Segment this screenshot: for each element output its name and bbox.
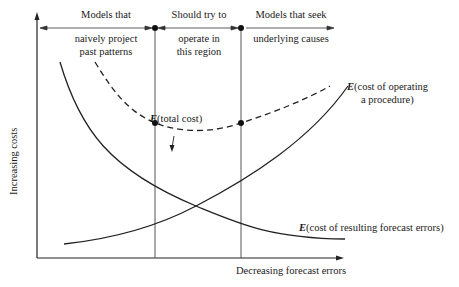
label-total-cost: E(total cost) [150, 112, 202, 125]
region-label-causal: Models that seek [248, 8, 334, 21]
y-axis-label: Increasing costs [7, 128, 20, 195]
curve-forecast-errors [60, 62, 345, 239]
boundary-dot-right-top [238, 25, 244, 31]
region-label-optimal-sub: operate in this region [160, 32, 238, 58]
region-label-naive: Models that [60, 8, 152, 21]
x-axis-label: Decreasing forecast errors [236, 264, 346, 277]
y-axis-arrow-icon [35, 12, 40, 20]
pointer-arrow-icon [170, 145, 175, 152]
total-cost-point-right [238, 120, 244, 126]
x-axis-arrow-icon [336, 256, 344, 261]
boundary-dot-left-top [152, 25, 158, 31]
region-label-naive-sub: naively project past patterns [56, 32, 156, 58]
region-dividers [155, 28, 241, 258]
region-label-optimal: Should try to [160, 8, 238, 21]
label-forecast-errors: E(cost of resulting forecast errors) [299, 221, 444, 234]
region-arrows [40, 26, 334, 30]
curve-total-cost [95, 62, 330, 131]
region-label-causal-sub: underlying causes [248, 32, 334, 45]
label-operating-cost: E(cost of operating a procedure) [347, 80, 428, 106]
